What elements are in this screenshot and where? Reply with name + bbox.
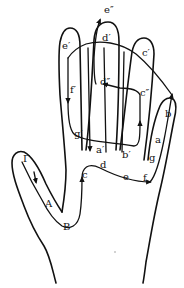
label-g-prime: g′ — [74, 128, 83, 139]
label-g: g — [149, 152, 156, 163]
label-a: a — [155, 134, 161, 145]
label-f-prime: f′ — [70, 84, 77, 95]
label-b-prime: b′ — [122, 149, 131, 160]
label-a-prime: a′ — [96, 144, 105, 155]
label-A: A — [44, 198, 53, 209]
label-e-prime: e′ — [62, 40, 71, 51]
label-e: e — [123, 171, 129, 182]
label-c: c — [82, 169, 88, 180]
label-b: b — [165, 108, 171, 119]
hand-diagram: e″ d′ e′ c′ f′ d″ c″ b a g′ a′ b′ g c d … — [0, 0, 184, 288]
label-c-double-prime: c″ — [140, 87, 150, 98]
label-d-double-prime: d″ — [100, 76, 110, 87]
label-e-double-prime: e″ — [104, 4, 114, 15]
label-d: d — [100, 159, 107, 170]
label-gamma: Γ — [23, 153, 30, 164]
label-c-prime: c′ — [142, 47, 151, 58]
label-B: B — [63, 221, 70, 232]
speck — [114, 251, 116, 253]
label-d-prime: d′ — [102, 32, 111, 43]
